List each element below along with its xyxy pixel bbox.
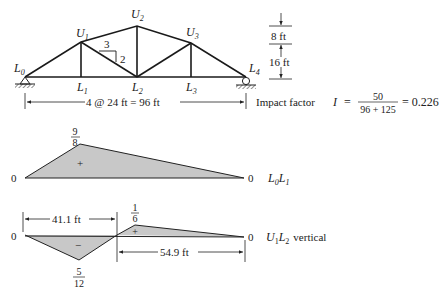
dim-lower-height: 16 ft [269, 56, 289, 68]
il2-start-value: 0 [11, 230, 17, 242]
label-L1: L1 [76, 80, 88, 96]
il2-pos-sign: + [132, 226, 138, 237]
truss-influence-diagram: 3 2 L0 U1 U2 U3 L4 L1 L2 L3 8 ft 16 ft [0, 0, 445, 295]
dim-upper-height: 8 ft [271, 30, 286, 42]
il2-neg-peak-num: 5 [77, 266, 82, 277]
impact-symbol: I [332, 95, 338, 109]
il1-sign: + [77, 157, 83, 169]
il1-peak-den: 8 [73, 137, 78, 148]
il2-dim-left: 41.1 ft [52, 213, 81, 225]
il1-start-value: 0 [11, 172, 17, 184]
roller-support-icon [236, 77, 256, 89]
truss [25, 26, 246, 77]
slope-indicator [99, 51, 116, 62]
il2-neg-sign: − [75, 239, 81, 251]
il2-pos-peak-num: 1 [133, 202, 138, 213]
label-L0: L0 [13, 61, 25, 77]
label-U3: U3 [186, 25, 199, 41]
il2-label: U1L2vertical [266, 230, 326, 246]
slope-run: 3 [104, 38, 110, 50]
impact-result: = 0.226 [402, 95, 439, 109]
top-chord [25, 26, 246, 77]
height-dimension [269, 13, 292, 79]
il1-end-value: 0 [248, 172, 254, 184]
label-U1: U1 [76, 26, 89, 42]
il2-pos-peak-den: 6 [133, 213, 138, 224]
impact-factor-label: Impact factor [256, 96, 315, 108]
span-label: 4 @ 24 ft = 96 ft [86, 96, 160, 108]
label-L4: L4 [248, 61, 260, 77]
il2-neg-peak-den: 12 [74, 278, 84, 289]
il2-end-value: 0 [248, 231, 254, 243]
impact-denominator: 96 + 125 [360, 104, 396, 115]
impact-numerator: 50 [373, 91, 383, 102]
il1-label: L0L1 [267, 171, 289, 187]
il2-dim-right: 54.9 ft [160, 246, 189, 258]
label-L2: L2 [131, 80, 143, 96]
impact-equals: = [344, 95, 351, 109]
label-U2: U2 [131, 7, 144, 23]
member-L2U3 [137, 43, 191, 77]
influence-line-L0L1 [25, 144, 244, 178]
label-L3: L3 [185, 80, 197, 96]
slope-rise: 2 [120, 53, 126, 65]
il1-peak-num: 9 [73, 126, 78, 137]
pin-support-icon [15, 77, 35, 88]
